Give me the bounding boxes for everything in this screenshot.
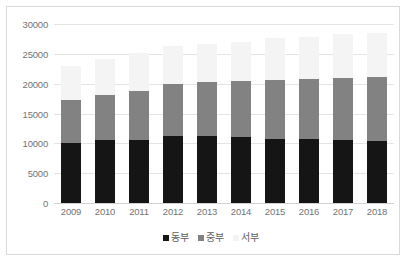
bar-segment-동부	[265, 139, 285, 203]
x-axis-tick-label: 2017	[326, 206, 360, 217]
bar-segment-중부	[61, 100, 81, 143]
bar-segment-동부	[231, 137, 251, 203]
legend-swatch-icon	[163, 235, 169, 241]
bar-slot	[258, 24, 292, 203]
y-axis-tick-label: 0	[43, 198, 48, 209]
x-axis-tick-label: 2012	[156, 206, 190, 217]
bar-segment-서부	[333, 34, 353, 78]
x-axis-tick-label: 2009	[54, 206, 88, 217]
y-axis-tick-label: 20000	[23, 78, 48, 89]
bar-slot	[88, 24, 122, 203]
legend-swatch-icon	[198, 235, 204, 241]
stacked-bar[interactable]	[163, 46, 183, 203]
x-axis-tick-label: 2018	[360, 206, 394, 217]
bar-slot	[122, 24, 156, 203]
x-axis-line	[54, 203, 394, 204]
bar-slot	[360, 24, 394, 203]
y-axis-tick-label: 25000	[23, 48, 48, 59]
bar-segment-중부	[265, 80, 285, 139]
bar-segment-동부	[61, 143, 81, 203]
x-axis-tick-label: 2013	[190, 206, 224, 217]
bar-segment-중부	[197, 82, 217, 135]
bar-slot	[292, 24, 326, 203]
stacked-bar[interactable]	[61, 66, 81, 203]
bar-segment-동부	[367, 141, 387, 203]
chart-legend: 동부중부서부	[7, 233, 408, 243]
bar-segment-중부	[163, 84, 183, 136]
stacked-bar[interactable]	[367, 33, 387, 203]
legend-label: 중부	[206, 233, 224, 243]
legend-label: 동부	[171, 233, 189, 243]
x-axis-tick-label: 2014	[224, 206, 258, 217]
y-axis-tick-label: 15000	[23, 108, 48, 119]
bar-slot	[156, 24, 190, 203]
x-axis-tick-label: 2016	[292, 206, 326, 217]
stacked-bar[interactable]	[129, 53, 149, 203]
bar-segment-동부	[197, 136, 217, 203]
stacked-bar[interactable]	[197, 44, 217, 203]
bar-slot	[190, 24, 224, 203]
bar-segment-중부	[367, 77, 387, 141]
bar-slot	[224, 24, 258, 203]
bar-segment-서부	[163, 46, 183, 84]
bar-segment-동부	[163, 136, 183, 203]
bar-segment-서부	[95, 59, 115, 95]
chart-frame: 050001000015000200002500030000 200920102…	[6, 6, 400, 255]
legend-item-서부[interactable]: 서부	[233, 233, 259, 243]
bar-segment-중부	[129, 91, 149, 140]
bar-segment-중부	[299, 79, 319, 139]
stacked-bar[interactable]	[231, 42, 251, 203]
bar-segment-서부	[265, 38, 285, 79]
bar-segment-동부	[95, 140, 115, 203]
plot-area	[54, 24, 394, 203]
bar-segment-동부	[129, 140, 149, 203]
y-axis-tick-label: 30000	[23, 19, 48, 30]
x-axis-tick-label: 2011	[122, 206, 156, 217]
x-axis-tick-label: 2010	[88, 206, 122, 217]
bar-series-container	[54, 24, 394, 203]
bar-segment-서부	[129, 53, 149, 91]
bar-segment-중부	[95, 95, 115, 140]
bar-segment-서부	[197, 44, 217, 83]
legend-item-동부[interactable]: 동부	[163, 233, 189, 243]
bar-segment-서부	[367, 33, 387, 77]
y-axis-labels: 050001000015000200002500030000	[7, 24, 48, 203]
x-axis-labels: 2009201020112012201320142015201620172018	[54, 206, 394, 222]
bar-segment-동부	[333, 140, 353, 203]
legend-label: 서부	[241, 233, 259, 243]
y-axis-tick-label: 5000	[28, 168, 48, 179]
bar-segment-서부	[299, 37, 319, 79]
stacked-bar[interactable]	[95, 59, 115, 203]
stacked-bar[interactable]	[299, 37, 319, 203]
stacked-bar[interactable]	[265, 38, 285, 203]
legend-swatch-icon	[233, 235, 239, 241]
bar-slot	[326, 24, 360, 203]
bar-segment-동부	[299, 139, 319, 203]
bar-segment-서부	[231, 42, 251, 81]
bar-segment-중부	[231, 81, 251, 137]
legend-item-중부[interactable]: 중부	[198, 233, 224, 243]
bar-slot	[54, 24, 88, 203]
bar-segment-서부	[61, 66, 81, 101]
y-axis-tick-label: 10000	[23, 138, 48, 149]
bar-segment-중부	[333, 78, 353, 141]
stacked-bar[interactable]	[333, 34, 353, 203]
x-axis-tick-label: 2015	[258, 206, 292, 217]
